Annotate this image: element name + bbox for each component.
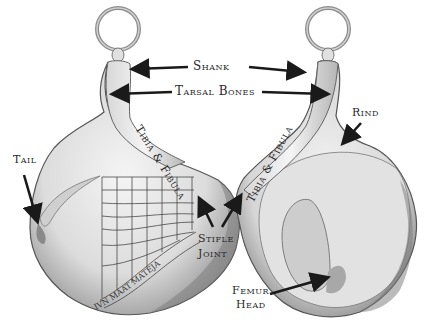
label-femur-line1: Femur (232, 285, 269, 296)
label-stifle-line1: Stifle (198, 233, 234, 244)
arrow-shank-right (249, 67, 302, 72)
ham-anatomy-diagram: IVN MAAT MATEJA (0, 0, 429, 335)
label-stifle-line2: Joint (198, 248, 227, 259)
diagram-canvas: IVN MAAT MATEJA (0, 0, 429, 335)
left-ham: IVN MAAT MATEJA (30, 8, 239, 315)
label-rind: Rind (352, 107, 379, 118)
label-shank: Shank (193, 60, 229, 72)
label-tail: Tail (13, 154, 37, 165)
label-femur-line2: Head (236, 299, 266, 310)
label-tarsal-bones: Tarsal Bones (175, 85, 255, 97)
arrow-shank-left (134, 67, 188, 69)
